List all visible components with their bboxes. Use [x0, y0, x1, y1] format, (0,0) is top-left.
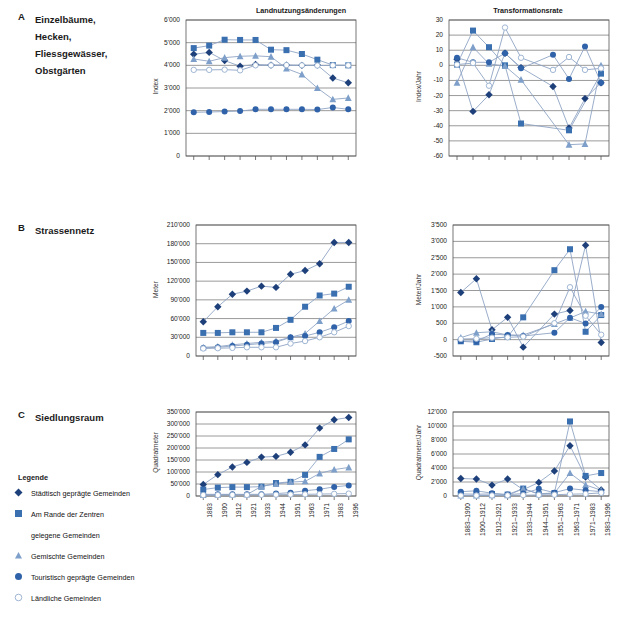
panel-title-c: Siedlungsraum	[35, 409, 104, 426]
point-triangle	[345, 464, 352, 471]
ytick-label: 0	[150, 492, 190, 499]
point-diamond	[535, 479, 542, 486]
point-circle	[346, 482, 352, 488]
legend-marker-circle	[14, 572, 23, 581]
point-square	[486, 44, 492, 50]
xtick-label: 1912	[235, 503, 242, 557]
point-opencircle	[273, 492, 278, 497]
legend-marker-triangle	[14, 551, 23, 560]
point-circle	[345, 106, 351, 112]
point-opencircle	[470, 60, 475, 65]
point-square	[551, 267, 557, 273]
chart-a-left: 01'0002'0003'0004'0005'0006'000Index	[150, 14, 360, 174]
point-opencircle	[489, 335, 494, 340]
panel-title-b: Strassennetz	[35, 222, 94, 239]
point-diamond	[566, 442, 573, 449]
ytick-label: 6'000	[150, 16, 180, 23]
ytick-label: 0	[413, 336, 447, 343]
panel-c-title-line-1: Siedlungsraum	[35, 409, 104, 426]
point-opencircle	[521, 492, 526, 497]
point-triangle	[567, 470, 574, 477]
ytick-label: 3'000	[413, 237, 447, 244]
ytick-label: 30	[413, 16, 443, 23]
point-square	[583, 473, 589, 479]
chart-b-left: 030'00060'00090'000120'000150'000180'000…	[150, 219, 360, 374]
point-square	[273, 325, 279, 331]
point-circle	[331, 484, 337, 490]
point-diamond	[229, 463, 236, 470]
point-circle	[583, 321, 589, 327]
point-circle	[582, 43, 588, 49]
xtick-label: 1983	[337, 503, 344, 557]
point-diamond	[549, 83, 556, 90]
xtick-label: 1971	[323, 503, 330, 557]
point-opencircle	[536, 492, 541, 497]
ytick-label: -60	[413, 152, 443, 159]
xtick-label: 1883	[206, 503, 213, 557]
point-circle	[283, 106, 289, 112]
ytick-label: 1'000	[150, 129, 180, 136]
point-opencircle	[599, 490, 604, 495]
point-circle	[237, 108, 243, 114]
point-circle	[222, 109, 228, 115]
point-opencircle	[230, 345, 235, 350]
point-opencircle	[299, 63, 304, 68]
point-opencircle	[550, 67, 555, 72]
point-square	[288, 317, 294, 323]
xtick-label: 1933–1944	[526, 503, 533, 557]
point-circle	[330, 104, 336, 110]
plot-A-left	[150, 14, 360, 174]
point-square	[215, 485, 221, 491]
point-diamond	[243, 287, 250, 294]
point-triangle	[331, 305, 338, 312]
point-diamond	[582, 242, 589, 249]
legend-label-4: Touristisch geprägte Gemeinden	[31, 573, 134, 582]
point-square	[244, 484, 250, 490]
point-opencircle	[521, 334, 526, 339]
point-square	[237, 37, 243, 43]
point-opencircle	[244, 492, 249, 497]
point-triangle	[299, 71, 306, 78]
point-square	[314, 57, 320, 63]
point-opencircle	[215, 492, 220, 497]
legend-marker-diamond	[14, 488, 23, 497]
point-square	[229, 484, 235, 490]
legend-label-1: Am Rande der Zentren	[31, 510, 104, 519]
legend-title: Legende	[18, 473, 48, 482]
ytick-label: 180'000	[150, 240, 190, 247]
point-circle	[518, 65, 524, 71]
point-square	[215, 330, 221, 336]
xtick-label: 1900–1912	[479, 503, 486, 557]
point-square	[331, 291, 337, 297]
panel-a-title-line-4: Obstgärten	[35, 62, 107, 79]
point-opencircle	[330, 63, 335, 68]
point-opencircle	[201, 492, 206, 497]
point-circle	[567, 486, 573, 492]
point-square	[470, 28, 476, 34]
point-opencircle	[284, 62, 289, 67]
point-square	[258, 329, 264, 335]
point-circle	[253, 106, 259, 112]
y-axis-title: Meter/Jahr	[415, 254, 422, 324]
point-square	[346, 284, 352, 290]
point-diamond	[330, 239, 337, 246]
point-opencircle	[518, 55, 523, 60]
xtick-label: 1883–1900	[464, 503, 471, 557]
legend-label-3: Gemischte Gemeinden	[31, 552, 105, 561]
point-circle	[566, 76, 572, 82]
point-square	[567, 246, 573, 252]
point-square	[253, 37, 259, 43]
point-square	[299, 51, 305, 57]
point-opencircle	[268, 63, 273, 68]
point-opencircle	[458, 493, 463, 498]
point-square	[520, 314, 526, 320]
point-diamond	[316, 260, 323, 267]
point-opencircle	[259, 345, 264, 350]
panel-b-title-line-1: Strassennetz	[35, 222, 94, 239]
xtick-label: 1951–1963	[557, 503, 564, 557]
point-opencircle	[244, 345, 249, 350]
y-axis-title: Quadratmeter	[152, 418, 159, 488]
legend-label-0: Städtisch geprägte Gemeinden	[31, 489, 130, 498]
point-opencircle	[454, 62, 459, 67]
point-diamond	[330, 416, 337, 423]
